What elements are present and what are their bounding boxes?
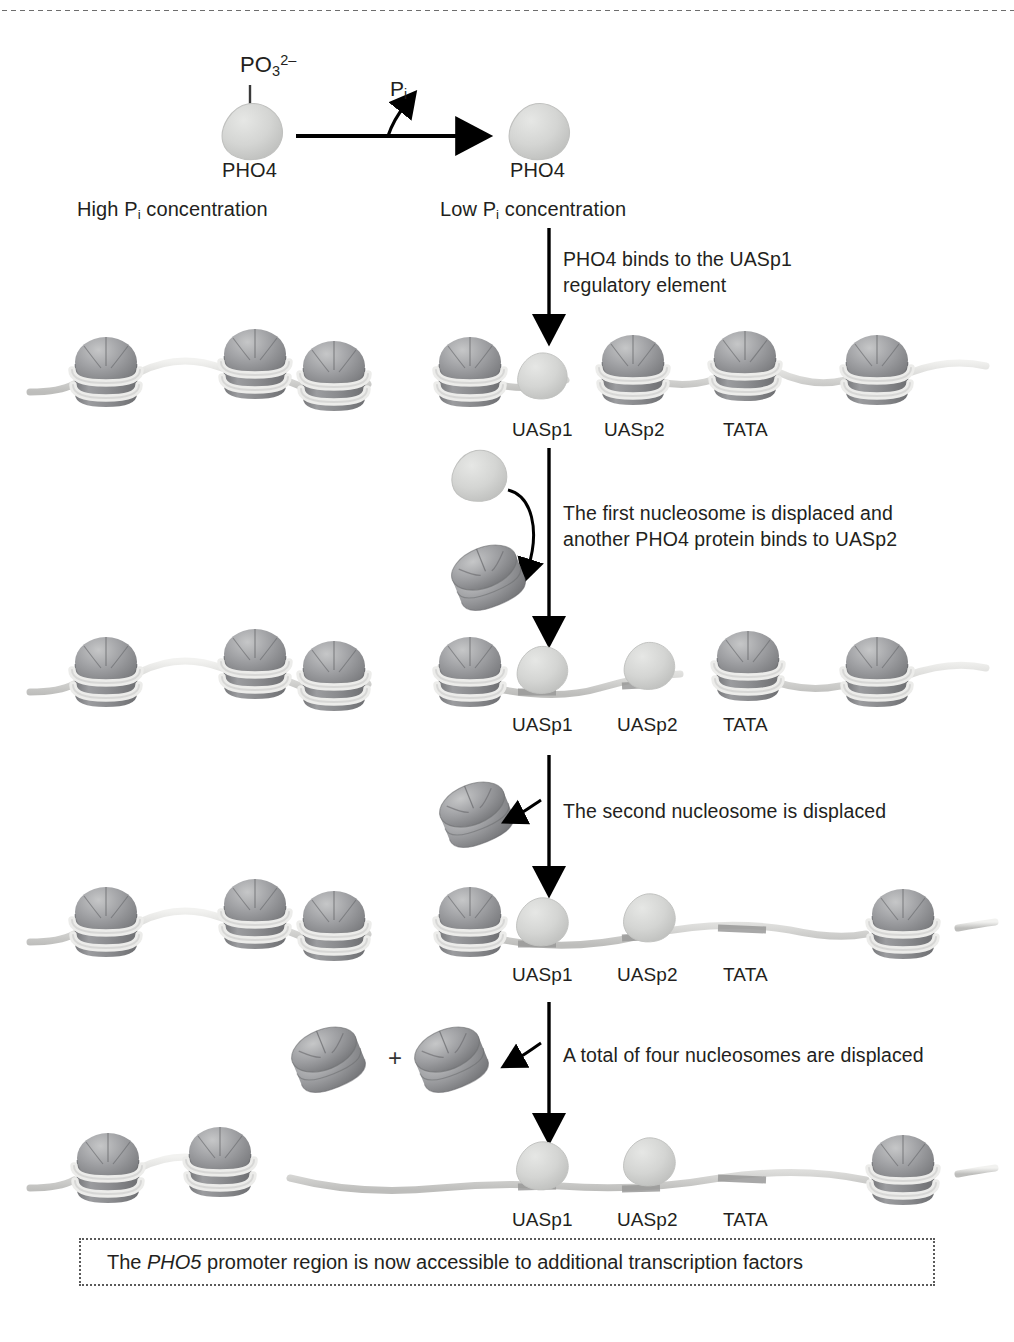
row-1-label-uasp2: UASp2 bbox=[604, 419, 665, 441]
nucleosome bbox=[714, 631, 782, 701]
nucleosome bbox=[711, 331, 779, 401]
row-2-label-uasp2: UASp2 bbox=[617, 714, 678, 736]
nucleosome bbox=[300, 641, 368, 711]
nucleosome bbox=[599, 335, 667, 405]
nucleosome bbox=[869, 1135, 937, 1205]
step-4-line-1: A total of four nucleosomes are displace… bbox=[563, 1042, 1003, 1068]
nucleosome bbox=[74, 1133, 142, 1203]
row-4-label-tata: TATA bbox=[723, 1209, 768, 1231]
caption-prefix: The bbox=[107, 1251, 147, 1273]
phosphate-label: PO32– bbox=[240, 52, 297, 79]
row-3-label-uasp1: UASp1 bbox=[512, 964, 573, 986]
step-3-text: The second nucleosome is displaced bbox=[563, 798, 993, 824]
high-pi-condition-label: High Pi concentration bbox=[77, 198, 268, 222]
step-1-line-2: regulatory element bbox=[563, 272, 983, 298]
pho4-bound bbox=[518, 353, 568, 399]
pho4-bound bbox=[624, 642, 675, 689]
step-2-line-1: The first nucleosome is displaced and bbox=[563, 500, 993, 526]
chromatin-row-4 bbox=[30, 1127, 995, 1205]
step-3-line-1: The second nucleosome is displaced bbox=[563, 798, 993, 824]
pho4-bound bbox=[517, 898, 569, 946]
row-3-label-uasp2: UASp2 bbox=[617, 964, 678, 986]
displaced-group-1 bbox=[445, 450, 534, 617]
chromatin-row-3 bbox=[30, 879, 995, 961]
pho4-label-right: PHO4 bbox=[510, 159, 565, 182]
row-3-label-tata: TATA bbox=[723, 964, 768, 986]
nucleosome bbox=[843, 335, 911, 405]
nucleosome bbox=[221, 629, 289, 699]
nucleosome bbox=[221, 329, 289, 399]
chromatin-row-2 bbox=[30, 629, 986, 711]
row-2-label-tata: TATA bbox=[723, 714, 768, 736]
caption-suffix: promoter region is now accessible to add… bbox=[202, 1251, 803, 1273]
pho4-bound bbox=[517, 646, 568, 693]
pho4-bound bbox=[517, 1142, 569, 1190]
pho4-label-left: PHO4 bbox=[222, 159, 277, 182]
step-2-text: The first nucleosome is displaced and an… bbox=[563, 500, 993, 552]
row-1-label-uasp1: UASp1 bbox=[512, 419, 573, 441]
diagram-canvas: PO32– Pi PHO4 PHO4 High Pi concentration… bbox=[0, 0, 1014, 1342]
step-4-text: A total of four nucleosomes are displace… bbox=[563, 1042, 1003, 1068]
nucleosome bbox=[221, 879, 289, 949]
nucleosome bbox=[300, 891, 368, 961]
chromatin-row-1 bbox=[30, 329, 986, 411]
nucleosome bbox=[436, 637, 504, 707]
row-2-label-uasp1: UASp1 bbox=[512, 714, 573, 736]
nucleosome bbox=[436, 337, 504, 407]
nucleosome bbox=[72, 887, 140, 957]
pho4-bound bbox=[624, 894, 676, 942]
nucleosome bbox=[869, 889, 937, 959]
row-1-label-tata: TATA bbox=[723, 419, 768, 441]
plus-sign: + bbox=[388, 1044, 402, 1072]
caption-gene-name: PHO5 bbox=[147, 1251, 201, 1273]
low-pi-condition-label: Low Pi concentration bbox=[440, 198, 626, 222]
step-2-line-2: another PHO4 protein binds to UASp2 bbox=[563, 526, 993, 552]
summary-caption-box: The PHO5 promoter region is now accessib… bbox=[79, 1238, 935, 1286]
row-4-label-uasp2: UASp2 bbox=[617, 1209, 678, 1231]
nucleosome bbox=[72, 337, 140, 407]
row-4-label-uasp1: UASp1 bbox=[512, 1209, 573, 1231]
displaced-group-2 bbox=[433, 773, 541, 854]
nucleosome bbox=[72, 637, 140, 707]
nucleosome bbox=[300, 341, 368, 411]
nucleosome bbox=[436, 887, 504, 957]
nucleosome bbox=[186, 1127, 254, 1197]
released-phosphate-label: Pi bbox=[390, 77, 407, 102]
nucleosome bbox=[843, 637, 911, 707]
summary-caption-text: The PHO5 promoter region is now accessib… bbox=[81, 1251, 803, 1274]
pho4-bound bbox=[624, 1138, 676, 1186]
displaced-group-3 bbox=[285, 1018, 541, 1099]
step-1-line-1: PHO4 binds to the UASp1 bbox=[563, 246, 983, 272]
step-1-text: PHO4 binds to the UASp1 regulatory eleme… bbox=[563, 246, 983, 298]
